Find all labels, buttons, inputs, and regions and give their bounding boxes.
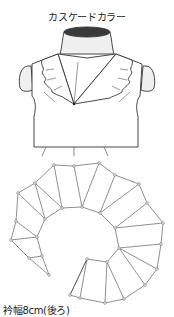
pattern-spoke xyxy=(119,248,157,269)
pattern-point xyxy=(15,220,18,223)
collar-pattern xyxy=(10,162,165,305)
pattern-spoke xyxy=(115,203,147,228)
pattern-spoke xyxy=(105,262,107,303)
pattern-point xyxy=(69,294,72,297)
pattern-point xyxy=(53,164,56,167)
pattern-spoke xyxy=(29,256,42,258)
pattern-point xyxy=(86,258,89,261)
pattern-point xyxy=(81,206,84,209)
pattern-spoke xyxy=(11,237,37,240)
pattern-point xyxy=(79,297,82,300)
pattern-spoke xyxy=(16,221,37,237)
pattern-point xyxy=(106,261,109,264)
pattern-point xyxy=(98,162,101,165)
pattern-spoke xyxy=(18,193,45,219)
pattern-point xyxy=(17,192,20,195)
pattern-point xyxy=(28,257,31,260)
pattern-point xyxy=(160,243,163,246)
pattern-point xyxy=(41,255,44,258)
pattern-point xyxy=(162,222,165,225)
pattern-spoke xyxy=(74,166,82,207)
pattern-point xyxy=(114,174,117,177)
pattern-point xyxy=(36,236,39,239)
pattern-point xyxy=(118,247,121,250)
pattern-point xyxy=(114,227,117,230)
pattern-point xyxy=(48,274,51,277)
neck-cap xyxy=(64,27,110,37)
pattern-point xyxy=(10,239,13,242)
pattern-spoke xyxy=(119,248,145,285)
pattern-spoke xyxy=(11,240,29,258)
pattern-point xyxy=(104,302,107,305)
pattern-spoke xyxy=(107,262,124,299)
pattern-spoke xyxy=(82,163,99,207)
figure-caption: 衿幅8cm(後ろ) xyxy=(3,302,70,317)
pattern-point xyxy=(156,268,159,271)
pattern-spoke xyxy=(115,223,163,228)
pattern-point xyxy=(144,284,147,287)
pattern-spoke xyxy=(80,259,87,298)
pattern-point xyxy=(146,202,149,205)
pattern-spoke xyxy=(35,183,45,219)
pattern-spoke xyxy=(119,244,161,248)
pattern-point xyxy=(138,183,141,186)
pattern-point xyxy=(99,212,102,215)
pattern-point xyxy=(73,165,76,168)
pattern-point xyxy=(34,182,37,185)
garment-illustration xyxy=(0,0,174,317)
pattern-point xyxy=(44,218,47,221)
pattern-spoke xyxy=(70,259,87,295)
pattern-point xyxy=(123,298,126,301)
pattern-point xyxy=(61,207,64,210)
